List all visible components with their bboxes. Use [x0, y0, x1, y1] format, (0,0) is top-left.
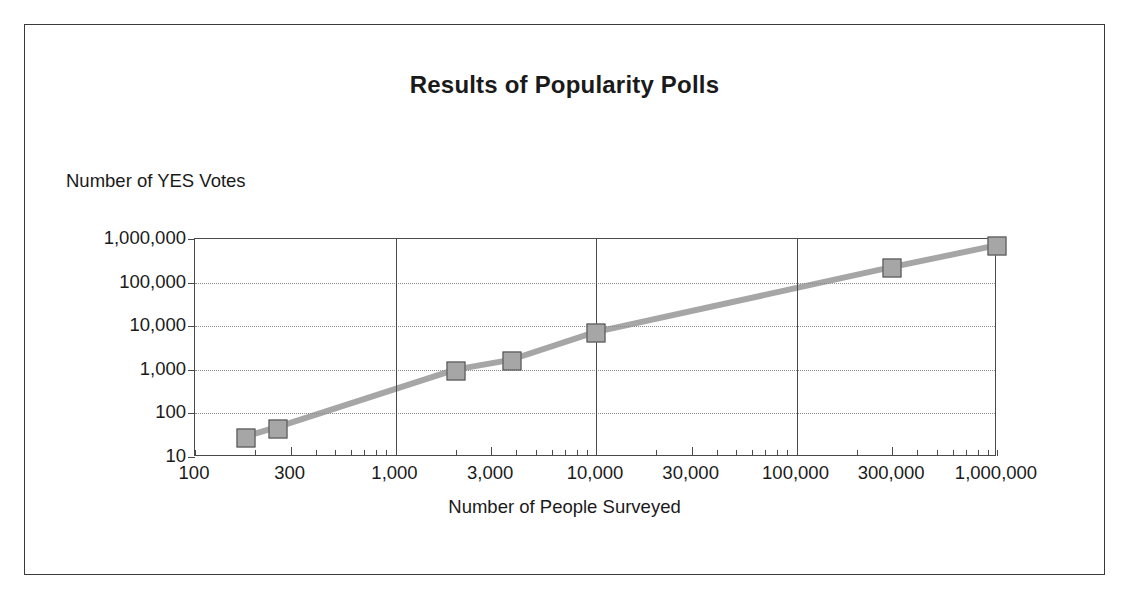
y-tick-label: 100,000 — [119, 271, 186, 293]
plot-area — [194, 238, 996, 456]
x-minor-tick-mark — [565, 450, 566, 456]
data-point-marker — [269, 419, 288, 438]
x-minor-tick-mark — [335, 450, 336, 456]
y-gridline — [195, 413, 995, 414]
x-minor-tick-mark — [386, 450, 387, 456]
x-minor-tick-mark — [857, 450, 858, 456]
x-tick-label: 3,000 — [467, 462, 513, 484]
x-tick-mark — [692, 447, 693, 456]
x-minor-tick-mark — [777, 450, 778, 456]
x-minor-tick-mark — [316, 450, 317, 456]
y-gridline — [195, 370, 995, 371]
chart-figure: Results of Popularity Polls Number of YE… — [24, 24, 1105, 575]
x-gridline — [797, 239, 798, 455]
x-minor-tick-mark — [953, 450, 954, 456]
y-tick-label: 100 — [155, 401, 186, 423]
x-tick-label: 300 — [274, 462, 305, 484]
x-minor-tick-mark — [656, 450, 657, 456]
y-tick-mark — [188, 413, 195, 414]
y-gridline — [195, 283, 995, 284]
x-minor-tick-mark — [937, 450, 938, 456]
data-point-marker — [988, 236, 1007, 255]
y-axis-title: Number of YES Votes — [66, 170, 246, 192]
data-point-marker — [883, 258, 902, 277]
data-point-marker — [237, 429, 256, 448]
x-minor-tick-mark — [552, 450, 553, 456]
x-tick-mark — [997, 450, 998, 456]
x-minor-tick-mark — [917, 450, 918, 456]
y-tick-label: 1,000,000 — [104, 227, 186, 249]
x-tick-mark — [291, 447, 292, 456]
x-tick-mark — [596, 450, 597, 456]
x-tick-label: 1,000,000 — [955, 462, 1037, 484]
x-axis-title: Number of People Surveyed — [25, 496, 1104, 518]
x-minor-tick-mark — [717, 450, 718, 456]
x-minor-tick-mark — [456, 450, 457, 456]
y-tick-mark — [188, 370, 195, 371]
y-tick-mark — [188, 326, 195, 327]
x-gridline — [396, 239, 397, 455]
x-tick-mark — [797, 450, 798, 456]
x-tick-mark — [491, 447, 492, 456]
x-minor-tick-mark — [988, 450, 989, 456]
y-tick-mark — [188, 239, 195, 240]
x-axis-tick-labels: 1003001,0003,00010,00030,000100,000300,0… — [194, 462, 996, 488]
x-tick-label: 100 — [179, 462, 210, 484]
y-tick-mark — [188, 283, 195, 284]
x-minor-tick-mark — [376, 450, 377, 456]
data-point-marker — [587, 323, 606, 342]
x-tick-label: 300,000 — [858, 462, 925, 484]
y-tick-label: 10,000 — [129, 314, 186, 336]
data-point-marker — [502, 351, 521, 370]
x-minor-tick-mark — [351, 450, 352, 456]
y-axis-tick-labels: 1,000,000100,00010,0001,00010010 — [60, 238, 186, 456]
x-minor-tick-mark — [516, 450, 517, 456]
series-line — [195, 239, 995, 455]
x-gridline — [596, 239, 597, 455]
x-tick-mark — [892, 447, 893, 456]
x-minor-tick-mark — [577, 450, 578, 456]
data-point-marker — [446, 361, 465, 380]
x-minor-tick-mark — [536, 450, 537, 456]
y-tick-mark — [188, 457, 195, 458]
x-minor-tick-mark — [787, 450, 788, 456]
x-tick-label: 1,000 — [371, 462, 417, 484]
x-minor-tick-mark — [736, 450, 737, 456]
x-minor-tick-mark — [752, 450, 753, 456]
x-minor-tick-mark — [978, 450, 979, 456]
chart-title: Results of Popularity Polls — [25, 71, 1104, 99]
x-minor-tick-mark — [765, 450, 766, 456]
x-tick-mark — [396, 450, 397, 456]
x-tick-label: 30,000 — [662, 462, 719, 484]
x-tick-mark — [195, 450, 196, 456]
x-tick-label: 100,000 — [762, 462, 829, 484]
x-minor-tick-mark — [364, 450, 365, 456]
y-tick-label: 1,000 — [140, 358, 186, 380]
x-tick-label: 10,000 — [567, 462, 624, 484]
x-minor-tick-mark — [255, 450, 256, 456]
x-minor-tick-mark — [587, 450, 588, 456]
x-minor-tick-mark — [966, 450, 967, 456]
